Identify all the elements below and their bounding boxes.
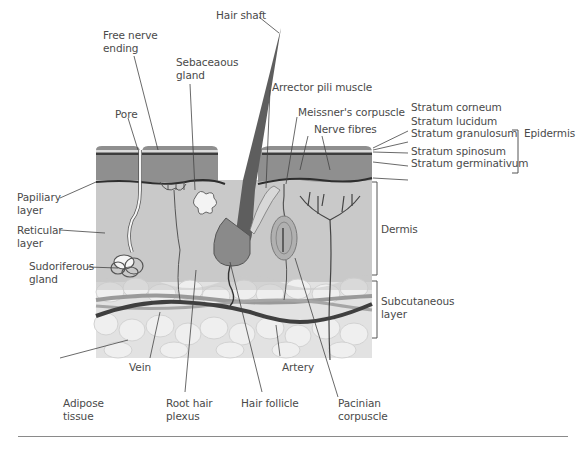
label-line: Sudoriferous xyxy=(29,260,94,273)
label-sebaceous-gland: Sebaceaous gland xyxy=(176,56,238,82)
label-line: tissue xyxy=(63,410,104,423)
label-line: Subcutaneous xyxy=(381,295,454,308)
subcutaneous-bracket xyxy=(372,281,377,338)
label-line: Reticular xyxy=(17,224,63,237)
label-line: Adipose xyxy=(63,397,104,410)
label-adipose-tissue: Adipose tissue xyxy=(63,397,104,423)
label-line: layer xyxy=(17,204,61,217)
label-line: gland xyxy=(29,273,94,286)
label-line: plexus xyxy=(166,410,213,423)
label-vein: Vein xyxy=(129,361,151,374)
label-arrector-pili-muscle: Arrector pili muscle xyxy=(272,81,372,94)
label-line: Root hair xyxy=(166,397,213,410)
bottom-rule xyxy=(18,436,568,437)
label-nerve-fibres: Nerve fibres xyxy=(314,123,377,136)
label-reticular-layer: Reticular layer xyxy=(17,224,63,250)
label-line: Sebaceaous xyxy=(176,56,238,69)
label-epidermis: Epidermis xyxy=(524,127,575,140)
label-root-hair-plexus: Root hair plexus xyxy=(166,397,213,423)
label-stratum-granulosum: Stratum granulosum xyxy=(411,127,518,140)
label-line: Papiliary xyxy=(17,191,61,204)
label-line: Free nerve xyxy=(103,29,158,42)
dermis-bracket xyxy=(372,182,377,275)
label-sudoriferous-gland: Sudoriferous gland xyxy=(29,260,94,286)
label-pacinian-corpuscle: Pacinian corpuscle xyxy=(338,397,388,423)
label-free-nerve-ending: Free nerve ending xyxy=(103,29,158,55)
label-hair-follicle: Hair follicle xyxy=(241,397,299,410)
label-line: gland xyxy=(176,69,238,82)
label-line: ending xyxy=(103,42,158,55)
label-line: corpuscle xyxy=(338,410,388,423)
label-line: layer xyxy=(381,308,454,321)
skin-diagram xyxy=(0,0,586,452)
label-stratum-germinativum: Stratum germinativum xyxy=(411,157,529,170)
label-stratum-corneum: Stratum corneum xyxy=(411,101,502,114)
label-meissners-corpuscle: Meissner's corpuscle xyxy=(298,106,405,119)
label-line: Pacinian xyxy=(338,397,388,410)
label-dermis: Dermis xyxy=(381,223,418,236)
label-artery: Artery xyxy=(282,361,314,374)
label-line: layer xyxy=(17,237,63,250)
pacinian-corpuscle-body xyxy=(271,216,297,260)
label-hair-shaft: Hair shaft xyxy=(216,9,266,22)
epidermis-layers xyxy=(96,146,372,184)
label-pore: Pore xyxy=(115,108,138,121)
label-subcutaneous-layer: Subcutaneous layer xyxy=(381,295,454,321)
label-papillary-layer: Papiliary layer xyxy=(17,191,61,217)
